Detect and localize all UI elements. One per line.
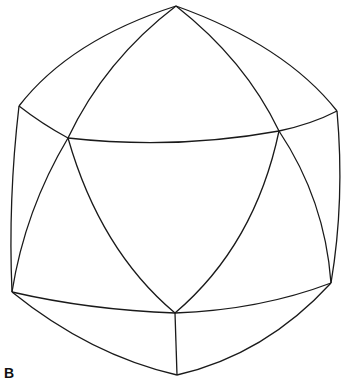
- edge-midleft-bottomcenter: [68, 138, 175, 313]
- edge-left-midleft: [19, 106, 68, 138]
- edge-midright-bottomright: [279, 131, 331, 283]
- edge-midright-right: [279, 111, 337, 131]
- edge-bottomcenter-bottomright: [175, 283, 331, 313]
- edge-bottomcenter-bottom: [175, 313, 177, 375]
- edge-top-right-outer: [176, 6, 337, 111]
- edge-top-left-outer: [19, 6, 176, 106]
- panel-label: B: [4, 365, 14, 381]
- edge-top-midleft: [68, 6, 176, 138]
- edge-right-bottomright: [331, 111, 340, 283]
- edge-top-midright: [176, 6, 279, 131]
- edge-bottom-bottomright: [177, 283, 331, 375]
- edge-midright-bottomcenter: [175, 131, 279, 313]
- figure-canvas: B: [0, 0, 352, 388]
- edge-midleft-bottomleft: [12, 138, 68, 292]
- edge-bottomleft-bottom: [12, 292, 177, 375]
- edge-equator: [68, 131, 279, 143]
- curved-solid-drawing: [0, 0, 352, 388]
